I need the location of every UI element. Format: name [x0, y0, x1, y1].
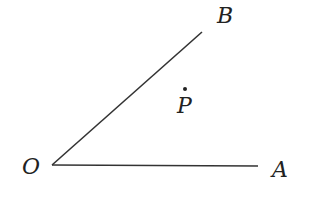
label-p: P: [177, 95, 192, 117]
label-b: B: [217, 5, 233, 27]
point-p-dot: [183, 87, 187, 91]
angle-diagram: O A B P: [0, 0, 313, 197]
diagram-svg: [0, 0, 313, 197]
label-a: A: [272, 159, 288, 181]
label-o: O: [22, 156, 40, 178]
ray-oa: [52, 165, 258, 166]
